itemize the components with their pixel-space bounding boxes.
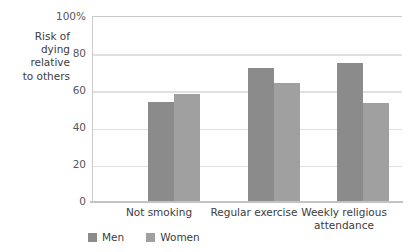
- legend-item-men[interactable]: Men: [88, 231, 124, 243]
- y-tick-label-0: 0: [28, 195, 86, 207]
- bar-group-weekly-religious-attendance: [337, 16, 391, 202]
- plot-area: [92, 16, 402, 202]
- bar-women-not-smoking[interactable]: [174, 94, 200, 202]
- legend-label-women: Women: [160, 231, 200, 243]
- y-tick-label-60: 60: [28, 84, 86, 96]
- legend: Men Women: [88, 231, 200, 243]
- x-tick-label-not-smoking: Not smoking: [112, 206, 206, 219]
- y-tick-label-80: 80: [28, 47, 86, 59]
- bar-men-regular-exercise[interactable]: [248, 68, 274, 202]
- x-axis-line: [90, 201, 403, 203]
- legend-item-women[interactable]: Women: [146, 231, 200, 243]
- y-tick-label-20: 20: [28, 158, 86, 170]
- bar-women-regular-exercise[interactable]: [274, 83, 300, 202]
- y-axis-tick-labels: 100% 80 60 40 20 0: [28, 0, 86, 252]
- bar-women-weekly-religious-attendance[interactable]: [363, 103, 389, 202]
- bar-men-not-smoking[interactable]: [148, 102, 174, 202]
- legend-swatch-women-icon: [146, 233, 155, 242]
- bar-group-not-smoking: [148, 16, 202, 202]
- bar-chart-figure: Risk of dying relative to others 100% 80…: [0, 0, 416, 252]
- x-tick-label-weekly-religious-attendance: Weekly religious attendance: [292, 206, 396, 231]
- y-tick-label-40: 40: [28, 121, 86, 133]
- bar-men-weekly-religious-attendance[interactable]: [337, 63, 363, 203]
- legend-swatch-men-icon: [88, 233, 97, 242]
- x-tick-label-regular-exercise: Regular exercise: [202, 206, 306, 219]
- y-tick-label-100: 100%: [28, 10, 86, 22]
- legend-label-men: Men: [102, 231, 124, 243]
- bar-group-regular-exercise: [248, 16, 302, 202]
